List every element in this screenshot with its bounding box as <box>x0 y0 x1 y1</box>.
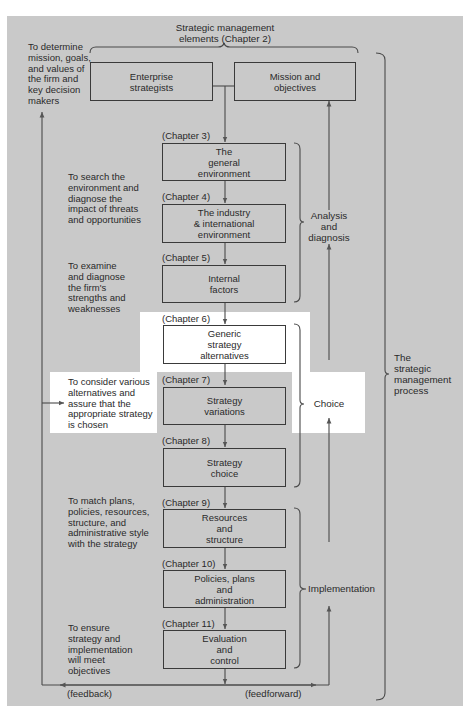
box-text: administration <box>195 595 254 606</box>
note-consider: To consider various alternatives and ass… <box>68 377 153 431</box>
phase-text: Implementation <box>308 583 378 594</box>
box-text: control <box>210 655 239 666</box>
note-line: and opportunities <box>68 215 141 226</box>
analysis-diagnosis-label: Analysis and diagnosis <box>305 210 353 243</box>
box-text: environment <box>198 229 250 240</box>
choice-label: Choice <box>310 398 348 409</box>
note-line: makers <box>28 96 91 107</box>
chapter-label-9: (Chapter 9) <box>162 497 210 508</box>
note-line: and diagnose <box>68 272 126 283</box>
phase-text: process <box>394 385 454 396</box>
chapter-label-8: (Chapter 8) <box>162 435 210 446</box>
note-line: environment and <box>68 183 141 194</box>
feedforward-label: (feedforward) <box>245 688 302 699</box>
box-text: Internal <box>208 273 240 284</box>
generic-strategy-box: Generic strategy alternatives <box>163 325 286 364</box>
box-text: The <box>216 146 232 157</box>
note-line: mission, goals, <box>28 53 91 64</box>
box-text: Strategy <box>207 395 242 406</box>
box-text: choice <box>211 468 238 479</box>
mission-objectives-box: Mission and objectives <box>234 62 356 101</box>
note-line: with the strategy <box>68 539 149 550</box>
phase-text: The <box>394 352 454 363</box>
chapter-label-4: (Chapter 4) <box>162 191 210 202</box>
box-text: Evaluation <box>202 633 246 644</box>
box-text: Enterprise <box>130 71 173 82</box>
box-text: objectives <box>274 82 316 93</box>
box-text: environment <box>198 168 250 179</box>
box-text: variations <box>204 406 245 417</box>
box-text: alternatives <box>200 350 249 361</box>
box-text: & international <box>194 218 255 229</box>
box-text: factors <box>210 284 239 295</box>
evaluation-control-box: Evaluation and control <box>163 630 286 669</box>
phase-text: strategic <box>394 363 454 374</box>
note-match: To match plans, policies, resources, str… <box>68 496 149 550</box>
note-line: strategy and <box>68 634 132 645</box>
chapter-label-3: (Chapter 3) <box>162 130 210 141</box>
chapter-label-6: (Chapter 6) <box>162 313 210 324</box>
note-line: weaknesses <box>68 304 126 315</box>
note-line: is chosen <box>68 420 153 431</box>
resources-structure-box: Resources and structure <box>163 509 286 548</box>
strategic-process-label: The strategic management process <box>394 352 454 396</box>
chapter-label-7: (Chapter 7) <box>162 374 210 385</box>
phase-text: and <box>305 221 353 232</box>
phase-text: diagnosis <box>305 232 353 243</box>
policies-plans-box: Policies, plans and administration <box>163 570 286 608</box>
note-line: policies, resources, <box>68 507 149 518</box>
general-environment-box: The general environment <box>162 143 286 181</box>
box-text: strategy <box>208 339 242 350</box>
box-text: and <box>217 584 233 595</box>
box-text: Generic <box>208 328 241 339</box>
chapter-label-11: (Chapter 11) <box>162 618 215 629</box>
chapter-label-10: (Chapter 10) <box>162 558 215 569</box>
enterprise-strategists-box: Enterprise strategists <box>90 62 213 101</box>
note-line: alternatives and <box>68 388 153 399</box>
note-determine: To determine mission, goals, and values … <box>28 42 91 107</box>
note-line: objectives <box>68 666 132 677</box>
box-text: structure <box>206 534 243 545</box>
strategic-elements-heading: Strategic management elements (Chapter 2… <box>160 22 290 44</box>
box-text: and <box>217 523 233 534</box>
box-text: strategists <box>130 82 173 93</box>
box-text: Mission and <box>270 71 321 82</box>
box-text: general <box>208 157 240 168</box>
box-text: The industry <box>198 207 250 218</box>
note-examine: To examine and diagnose the firm's stren… <box>68 261 126 315</box>
box-text: and <box>217 644 233 655</box>
heading-line: elements (Chapter 2) <box>160 33 290 44</box>
box-text: Policies, plans <box>194 573 255 584</box>
box-text: Strategy <box>207 457 242 468</box>
note-ensure: To ensure strategy and implementation wi… <box>68 623 132 677</box>
phase-text: Choice <box>310 398 348 409</box>
phase-text: Analysis <box>305 210 353 221</box>
strategy-variations-box: Strategy variations <box>163 387 286 425</box>
heading-line: Strategic management <box>160 22 290 33</box>
internal-factors-box: Internal factors <box>162 265 286 303</box>
phase-text: management <box>394 374 454 385</box>
feedback-label: (feedback) <box>67 688 112 699</box>
note-search: To search the environment and diagnose t… <box>68 172 141 226</box>
box-text: Resources <box>202 512 247 523</box>
strategy-choice-box: Strategy choice <box>163 448 286 487</box>
implementation-label: Implementation <box>308 583 378 594</box>
industry-environment-box: The industry & international environment <box>162 204 286 243</box>
chapter-label-5: (Chapter 5) <box>162 252 210 263</box>
